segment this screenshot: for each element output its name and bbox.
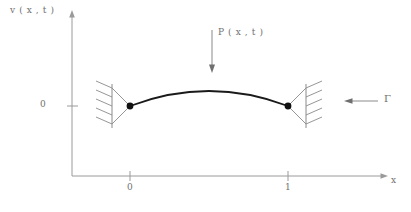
axial-force-label: Γ xyxy=(384,93,391,104)
y-axis-label: v ( x , t ) xyxy=(10,5,55,15)
x-tick-label-zero: 0 xyxy=(127,182,133,192)
y-tick-label-zero: 0 xyxy=(40,99,46,109)
right-support-node xyxy=(285,103,292,110)
x-tick-label-one: 1 xyxy=(285,182,291,192)
figure-background xyxy=(0,0,411,212)
left-support-node xyxy=(127,103,134,110)
load-label: P ( x , t ) xyxy=(218,27,264,37)
beam-diagram xyxy=(0,0,411,212)
x-axis-label: x xyxy=(391,175,396,185)
